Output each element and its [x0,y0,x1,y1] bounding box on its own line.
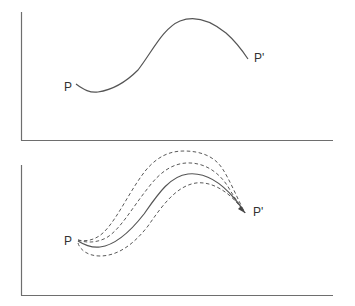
dashed-trajectory-inner [78,163,245,242]
bottom-panel: P P' [21,151,333,296]
dashed-trajectory-outer [78,151,245,241]
diagram-canvas: P P' P P' [0,0,355,306]
bottom-start-label: P [64,234,72,248]
top-panel: P P' [21,12,333,141]
top-trajectory-curve [76,18,248,92]
bottom-end-label: P' [253,205,263,219]
top-end-label: P' [254,51,264,65]
top-start-label: P [64,80,72,94]
central-trajectory-curve [78,174,245,247]
dashed-trajectory-lower [78,183,245,256]
arrowhead-icon [238,206,245,213]
